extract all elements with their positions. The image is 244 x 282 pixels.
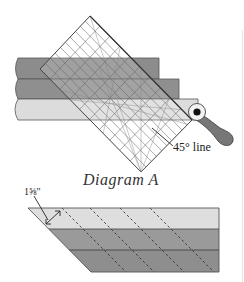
- page-edge-divider: [242, 30, 243, 282]
- diagram-caption: Diagram A: [83, 171, 159, 189]
- angle-label: 45° line: [173, 140, 211, 155]
- strip-set: [20, 208, 225, 272]
- cutter-hub: [193, 108, 200, 115]
- medium-band: [20, 229, 225, 250]
- light-band: [20, 208, 225, 229]
- measurement-label: 1⅝": [24, 186, 41, 197]
